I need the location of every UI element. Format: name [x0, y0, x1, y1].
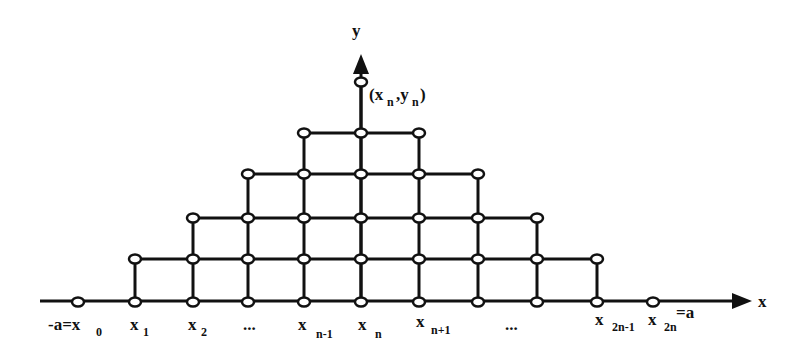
- grid-node: [242, 255, 254, 264]
- grid-node: [242, 298, 254, 307]
- tick-label-3: ...: [243, 315, 256, 334]
- top-label-open: (x: [369, 85, 384, 104]
- grid-node: [298, 129, 310, 138]
- tick-label-6: x: [416, 312, 425, 331]
- grid-node: [413, 129, 425, 138]
- top-label-close: ): [420, 85, 426, 104]
- y-axis-label: y: [352, 21, 361, 40]
- tick-sup-9: =a: [676, 303, 695, 322]
- grid-node: [647, 298, 659, 307]
- grid-node: [591, 255, 603, 264]
- grid-node: [187, 255, 199, 264]
- grid-node: [413, 298, 425, 307]
- y-axis-arrow-icon: [353, 54, 369, 74]
- grid-node: [298, 214, 310, 223]
- grid-lines: [135, 82, 597, 302]
- grid-node: [355, 129, 367, 138]
- grid-node: [129, 255, 141, 264]
- grid-diagram: y x (x n ,y n ) -a=x 0 x 1 x 2 ... x n-1…: [0, 0, 794, 354]
- tick-sub-2: 2: [201, 325, 207, 339]
- top-point-label: (x n ,y n ): [369, 85, 426, 109]
- top-label-mid: ,y: [396, 85, 409, 104]
- top-label-sub2: n: [412, 95, 419, 109]
- tick-sub-5: n: [375, 327, 382, 341]
- tick-sub-0: 0: [96, 325, 102, 339]
- grid-node: [472, 170, 484, 179]
- tick-label-0: -a=x: [48, 315, 81, 334]
- grid-node: [413, 170, 425, 179]
- grid-node: [355, 78, 367, 87]
- grid-node: [187, 298, 199, 307]
- tick-sub-4: n-1: [316, 327, 333, 341]
- grid-node: [413, 255, 425, 264]
- x-tick-labels: -a=x 0 x 1 x 2 ... x n-1 x n x n+1 ... x…: [48, 303, 695, 341]
- grid-node: [531, 255, 543, 264]
- grid-node: [531, 214, 543, 223]
- grid-node: [242, 170, 254, 179]
- tick-sub-8: 2n-1: [612, 320, 635, 334]
- grid-node: [355, 298, 367, 307]
- grid-nodes: [72, 78, 659, 307]
- grid-node: [472, 298, 484, 307]
- tick-label-1: x: [130, 315, 139, 334]
- tick-sub-1: 1: [143, 325, 149, 339]
- top-label-sub1: n: [387, 95, 394, 109]
- tick-sub-6: n+1: [431, 323, 451, 337]
- grid-node: [355, 170, 367, 179]
- grid-node: [355, 214, 367, 223]
- grid-node: [355, 255, 367, 264]
- grid-node: [242, 214, 254, 223]
- grid-node: [531, 298, 543, 307]
- tick-label-4: x: [298, 315, 307, 334]
- tick-label-2: x: [188, 315, 197, 334]
- grid-node: [413, 214, 425, 223]
- grid-node: [298, 170, 310, 179]
- x-axis-label: x: [758, 292, 767, 311]
- grid-node: [187, 214, 199, 223]
- grid-node: [591, 298, 603, 307]
- tick-label-7: ...: [505, 315, 518, 334]
- grid-node: [298, 298, 310, 307]
- tick-label-9: x: [648, 310, 657, 329]
- grid-node: [129, 298, 141, 307]
- tick-label-5: x: [358, 315, 367, 334]
- grid-node: [472, 255, 484, 264]
- tick-sub-9: 2n: [664, 320, 677, 334]
- tick-label-8: x: [595, 310, 604, 329]
- x-axis-arrow-icon: [732, 293, 752, 309]
- grid-node: [72, 298, 84, 307]
- grid-node: [472, 214, 484, 223]
- grid-node: [298, 255, 310, 264]
